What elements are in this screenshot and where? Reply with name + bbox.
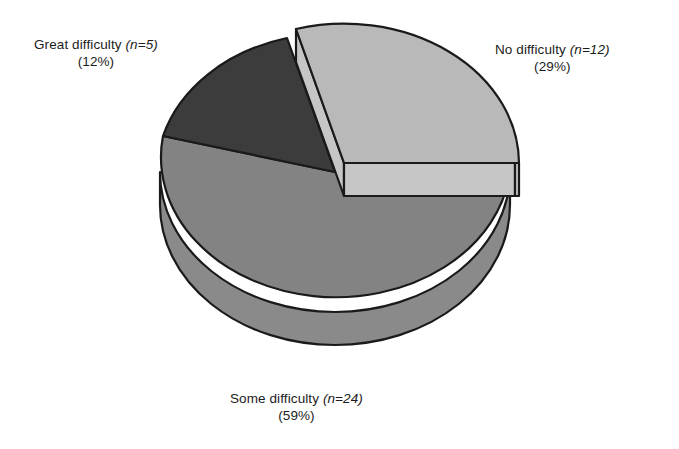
pie-label-no-difficulty-n: (n=12) bbox=[570, 42, 610, 57]
pie-label-some-difficulty-text: Some difficulty bbox=[230, 391, 323, 406]
pie-slice-no-difficulty-side-right bbox=[344, 163, 515, 196]
pie-label-some-difficulty-n: (n=24) bbox=[323, 391, 363, 406]
pie-chart-figure: Great difficulty (n=5) (12%) No difficul… bbox=[0, 0, 679, 449]
pie-label-some-difficulty: Some difficulty (n=24) (59%) bbox=[230, 390, 363, 424]
pie-label-great-difficulty-percent: (12%) bbox=[34, 53, 158, 70]
pie-label-no-difficulty-text: No difficulty bbox=[495, 42, 570, 57]
pie-label-no-difficulty-percent: (29%) bbox=[495, 58, 610, 75]
pie-label-some-difficulty-line1: Some difficulty (n=24) bbox=[230, 390, 363, 407]
pie-slice-no-difficulty-side-rim bbox=[515, 163, 519, 196]
pie-label-great-difficulty: Great difficulty (n=5) (12%) bbox=[34, 36, 158, 70]
pie-label-some-difficulty-percent: (59%) bbox=[230, 407, 363, 424]
pie-label-great-difficulty-text: Great difficulty bbox=[34, 37, 126, 52]
pie-label-no-difficulty: No difficulty (n=12) (29%) bbox=[495, 41, 610, 75]
pie-label-great-difficulty-n: (n=5) bbox=[126, 37, 158, 52]
pie-label-no-difficulty-line1: No difficulty (n=12) bbox=[495, 41, 610, 58]
pie-label-great-difficulty-line1: Great difficulty (n=5) bbox=[34, 36, 158, 53]
